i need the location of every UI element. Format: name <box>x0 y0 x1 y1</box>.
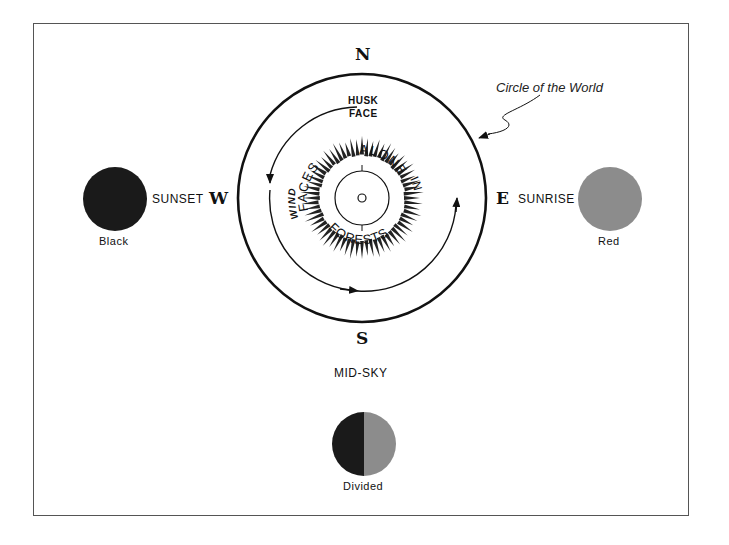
face-label: FACE <box>349 108 378 119</box>
direction-south: S <box>356 328 368 348</box>
direction-east: E <box>496 188 509 208</box>
sunset-label: SUNSET <box>152 192 204 206</box>
svg-text:IN: IN <box>407 174 425 193</box>
circle-of-the-world-caption: Circle of the World <box>496 80 603 95</box>
sunrise-label: SUNRISE <box>518 192 575 206</box>
cosmology-diagram: FACES ALONE IN FORESTS WIND <box>0 0 729 545</box>
callout-leader-line <box>488 95 540 134</box>
ring-word-in: IN <box>407 174 425 193</box>
ring-word-alone: ALONE <box>359 142 410 178</box>
sunrise-red-disc <box>578 167 642 231</box>
ring-word-wind: WIND <box>286 187 300 220</box>
direction-north: N <box>355 44 371 64</box>
svg-text:ALONE: ALONE <box>359 142 410 178</box>
black-color-label: Black <box>99 235 128 247</box>
husk-label: HUSK <box>348 95 378 106</box>
midsky-label: MID-SKY <box>334 366 388 380</box>
sunset-black-disc <box>83 167 147 231</box>
divided-color-label: Divided <box>343 480 383 492</box>
center-dot <box>358 194 366 202</box>
inner-circle <box>335 171 389 225</box>
red-color-label: Red <box>598 235 620 247</box>
svg-text:WIND: WIND <box>286 187 300 220</box>
midsky-divided-disc <box>332 412 396 476</box>
direction-west: W <box>209 188 228 208</box>
